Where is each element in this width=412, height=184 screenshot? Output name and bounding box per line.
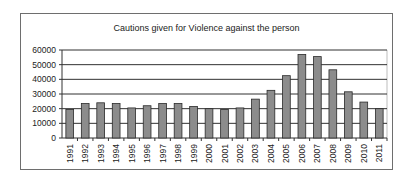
x-tick-label: 2001 <box>220 144 230 163</box>
x-tick-label: 2009 <box>343 144 353 163</box>
bar <box>159 104 167 138</box>
bar <box>143 106 151 138</box>
bar <box>112 104 120 138</box>
bar <box>236 108 244 138</box>
bar-chart: 0100002000030000400005000060000199119921… <box>0 0 412 184</box>
x-tick-label: 1993 <box>96 144 106 163</box>
y-tick-label: 20000 <box>32 104 56 114</box>
y-tick-label: 60000 <box>32 45 56 55</box>
bar <box>174 104 182 138</box>
y-tick-label: 40000 <box>32 74 56 84</box>
bar <box>128 108 136 138</box>
bar <box>66 109 74 138</box>
bar <box>313 57 321 138</box>
x-tick-label: 2005 <box>281 144 291 163</box>
bar <box>344 92 352 138</box>
x-tick-label: 1997 <box>158 144 168 163</box>
bar <box>283 76 291 138</box>
x-tick-label: 2006 <box>297 144 307 163</box>
x-tick-label: 2008 <box>328 144 338 163</box>
bar <box>360 102 368 138</box>
x-tick-label: 2011 <box>374 144 384 163</box>
bar <box>81 104 89 138</box>
x-tick-label: 1996 <box>142 144 152 163</box>
x-tick-label: 1999 <box>189 144 199 163</box>
x-tick-label: 2002 <box>235 144 245 163</box>
y-tick-label: 0 <box>51 133 56 143</box>
bar <box>298 54 306 138</box>
x-tick-label: 1998 <box>173 144 183 163</box>
x-tick-label: 2003 <box>250 144 260 163</box>
bar <box>375 109 383 138</box>
y-tick-label: 10000 <box>32 118 56 128</box>
y-tick-label: 50000 <box>32 60 56 70</box>
x-tick-label: 1992 <box>80 144 90 163</box>
x-tick-label: 2004 <box>266 144 276 163</box>
x-tick-label: 1991 <box>65 144 75 163</box>
x-tick-label: 2000 <box>204 144 214 163</box>
y-tick-label: 30000 <box>32 89 56 99</box>
x-tick-label: 1995 <box>127 144 137 163</box>
bar <box>97 103 105 138</box>
bar <box>205 109 213 138</box>
bar <box>190 106 198 138</box>
bar <box>252 99 260 138</box>
x-tick-label: 2010 <box>359 144 369 163</box>
x-tick-label: 2007 <box>312 144 322 163</box>
x-tick-label: 1994 <box>111 144 121 163</box>
bar <box>267 90 275 138</box>
bar <box>329 70 337 138</box>
bar <box>221 109 229 138</box>
